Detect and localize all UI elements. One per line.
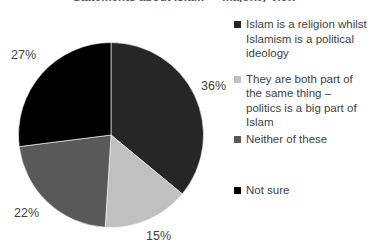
legend-swatch-icon	[234, 187, 241, 194]
legend-item-both-part-of-same-thing[interactable]: They are both part of the same thing – p…	[234, 72, 369, 130]
legend-item-label: Neither of these	[246, 132, 327, 147]
legend-swatch-icon	[234, 136, 241, 143]
chart-legend: Islam is a religion whilst Islamism is a…	[234, 17, 369, 200]
pie-slice-group	[19, 43, 204, 228]
pie-data-label-27: 27%	[11, 48, 36, 62]
pie-chart-figure: Statements about Islam — majority view 3…	[0, 0, 369, 250]
pie-plot-area	[18, 42, 204, 228]
pie-data-label-22: 22%	[14, 206, 39, 220]
legend-item-neither-of-these[interactable]: Neither of these	[234, 132, 369, 147]
legend-item-label: Not sure	[246, 183, 289, 198]
legend-swatch-icon	[234, 76, 241, 83]
legend-item-label: They are both part of the same thing – p…	[246, 72, 368, 130]
pie-data-label-36: 36%	[201, 79, 226, 93]
pie-data-label-15: 15%	[146, 229, 171, 243]
legend-swatch-icon	[234, 21, 241, 28]
chart-title: Statements about Islam — majority view	[0, 0, 369, 2]
pie-svg	[18, 42, 204, 228]
legend-item-not-sure[interactable]: Not sure	[234, 183, 369, 198]
legend-item-islam-is-a-religion[interactable]: Islam is a religion whilst Islamism is a…	[234, 17, 369, 61]
legend-item-label: Islam is a religion whilst Islamism is a…	[246, 17, 368, 61]
